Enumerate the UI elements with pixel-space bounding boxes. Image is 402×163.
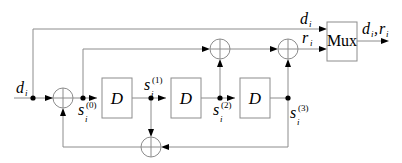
svg-text:s: s: [290, 104, 296, 121]
svg-text:(1): (1): [152, 75, 163, 85]
svg-text:i: i: [25, 88, 28, 98]
delay-1: D: [102, 78, 132, 118]
adder-3: [278, 39, 298, 59]
svg-text:(0): (0): [86, 100, 97, 110]
delay-label: D: [179, 89, 193, 108]
arrow-to-mux-r: [319, 46, 327, 52]
delay-2: D: [171, 78, 201, 118]
junction-s0: [80, 95, 85, 100]
arrow-to-adder1: [45, 95, 53, 101]
systematic-output-label: d i: [300, 10, 312, 29]
arrow-to-bottom-adder: [161, 144, 169, 150]
svg-text:,: ,: [374, 20, 378, 37]
encoder-diagram: D D D Mux d i s (0) i s (1) i s (2) i s …: [0, 0, 402, 163]
svg-text:s: s: [144, 76, 150, 93]
state-label-s1: s (1) i: [144, 75, 163, 99]
delay-label: D: [110, 89, 124, 108]
svg-text:r: r: [379, 20, 386, 37]
adder-1: [53, 88, 73, 108]
svg-text:d: d: [362, 20, 371, 37]
arrow-feedback-up: [60, 108, 66, 116]
svg-text:i: i: [297, 117, 300, 127]
svg-text:r: r: [302, 29, 309, 46]
state-label-s3: s (3) i: [290, 103, 309, 127]
svg-text:i: i: [386, 29, 389, 39]
arrow-to-mux-d: [319, 26, 327, 32]
arrow-to-adder2: [202, 46, 210, 52]
delay-label: D: [248, 89, 262, 108]
mux-label: Mux: [327, 32, 357, 49]
svg-text:d: d: [300, 10, 309, 27]
svg-text:i: i: [220, 114, 223, 124]
parity-output-label: r i: [302, 29, 313, 48]
adder-feedback: [141, 137, 161, 157]
arrow-s3-up: [285, 59, 291, 67]
adder-2: [210, 39, 230, 59]
input-label: d i: [16, 79, 28, 98]
svg-text:i: i: [85, 114, 88, 124]
svg-text:s: s: [213, 101, 219, 118]
svg-text:i: i: [309, 19, 312, 29]
mux-block: Mux: [327, 22, 357, 61]
svg-text:(3): (3): [298, 103, 309, 113]
arrow-to-adder3: [270, 46, 278, 52]
mux-output-label: d i , r i: [362, 20, 389, 39]
delay-3: D: [240, 78, 270, 118]
svg-text:d: d: [16, 79, 25, 96]
arrow-s2-up: [217, 59, 223, 67]
arrow-to-d2: [158, 95, 166, 101]
arrow-s1-down: [148, 129, 154, 137]
svg-text:i: i: [310, 38, 313, 48]
state-label-s0: s (0) i: [78, 100, 97, 124]
svg-text:(2): (2): [221, 100, 232, 110]
junction-input: [30, 95, 35, 100]
state-label-s2: s (2) i: [213, 100, 232, 124]
svg-text:s: s: [78, 101, 84, 118]
junction-s3: [285, 95, 290, 100]
